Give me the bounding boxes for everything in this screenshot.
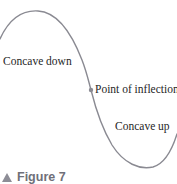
figure-inflection-point: POINT OF INFLECTION Concave down Point o…	[0, 0, 177, 184]
label-point-of-inflection: Point of inflection	[95, 84, 177, 96]
label-concave-down: Concave down	[3, 56, 72, 68]
label-concave-up: Concave up	[115, 121, 170, 133]
figure-caption-label: Figure 7	[17, 170, 66, 184]
inflection-point-dot	[89, 88, 93, 92]
triangle-marker-icon	[2, 173, 12, 182]
figure-caption: Figure 7	[2, 170, 66, 184]
